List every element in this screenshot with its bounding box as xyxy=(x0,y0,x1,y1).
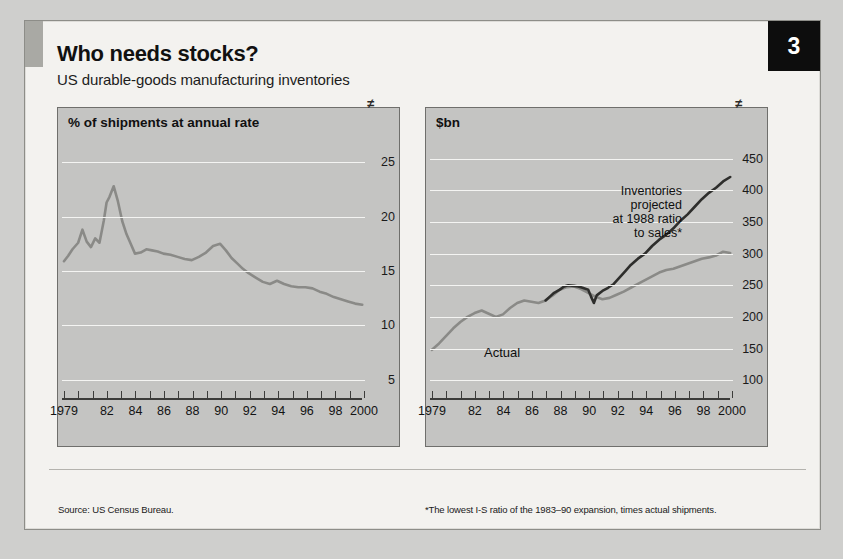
gridline xyxy=(62,217,365,218)
x-axis-label: 90 xyxy=(214,404,228,418)
x-axis-tick xyxy=(661,391,662,398)
chart-panel-right: $bn 100150200250300350400450 Inventories… xyxy=(425,107,768,447)
panel-right-title: $bn xyxy=(436,115,460,130)
axis-line xyxy=(430,398,730,400)
series-canvas-right xyxy=(426,138,767,410)
footer-divider xyxy=(49,469,806,470)
x-axis-tick xyxy=(321,391,322,398)
x-axis-tick xyxy=(364,391,365,398)
x-axis-label: 88 xyxy=(554,404,568,418)
x-axis-label: 82 xyxy=(100,404,114,418)
x-axis-label: 86 xyxy=(525,404,539,418)
x-axis-label: 1979 xyxy=(418,404,446,418)
x-axis-tick xyxy=(278,391,279,398)
x-axis-tick xyxy=(78,391,79,398)
x-axis-tick xyxy=(135,391,136,398)
x-axis-tick xyxy=(532,391,533,398)
x-axis-tick xyxy=(235,391,236,398)
axis-break-icon-right: ≠ xyxy=(735,96,742,410)
accent-bar xyxy=(25,21,43,67)
x-axis-tick xyxy=(461,391,462,398)
x-axis-label: 1979 xyxy=(50,404,78,418)
axis-line xyxy=(62,398,362,400)
x-axis-tick xyxy=(93,391,94,398)
x-axis-label: 90 xyxy=(582,404,596,418)
x-axis-label: 98 xyxy=(328,404,342,418)
x-axis-tick xyxy=(64,391,65,398)
x-axis-label: 94 xyxy=(639,404,653,418)
gridline xyxy=(430,317,733,318)
x-axis-tick xyxy=(575,391,576,398)
x-axis-tick xyxy=(264,391,265,398)
x-axis-tick xyxy=(475,391,476,398)
plot-area-right: 100150200250300350400450 xyxy=(426,138,767,410)
x-axis-label: 84 xyxy=(496,404,510,418)
x-axis-tick xyxy=(335,391,336,398)
x-axis-label: 96 xyxy=(668,404,682,418)
x-axis-tick xyxy=(307,391,308,398)
series-line xyxy=(64,186,362,304)
x-axis-tick xyxy=(121,391,122,398)
gridline xyxy=(62,271,365,272)
gridline xyxy=(430,349,733,350)
actual-annotation: Actual xyxy=(484,345,520,360)
x-axis-tick xyxy=(646,391,647,398)
x-axis-label: 92 xyxy=(243,404,257,418)
gridline xyxy=(62,325,365,326)
page-subtitle: US durable-goods manufacturing inventori… xyxy=(57,71,350,88)
annotation-line: projected xyxy=(562,198,682,212)
x-axis-tick xyxy=(432,391,433,398)
x-axis-tick xyxy=(293,391,294,398)
annotation-line: Inventories xyxy=(562,184,682,198)
x-axis-tick xyxy=(164,391,165,398)
gridline xyxy=(62,380,365,381)
chart-card: 3 Who needs stocks? US durable-goods man… xyxy=(24,20,821,530)
gridline xyxy=(430,285,733,286)
x-axis-tick xyxy=(546,391,547,398)
x-axis-label: 94 xyxy=(271,404,285,418)
axis-break-icon-left: ≠ xyxy=(367,96,374,410)
x-axis-tick xyxy=(193,391,194,398)
x-axis-right: 19798284868890929496982000 xyxy=(430,398,757,420)
x-axis-tick xyxy=(675,391,676,398)
series-canvas-left xyxy=(58,138,399,410)
x-axis-tick xyxy=(703,391,704,398)
x-axis-tick xyxy=(178,391,179,398)
x-axis-label: 92 xyxy=(611,404,625,418)
x-axis-tick xyxy=(503,391,504,398)
projected-annotation: Inventoriesprojectedat 1988 ratioto sale… xyxy=(562,184,682,240)
gridline xyxy=(62,162,365,163)
annotation-line: at 1988 ratio xyxy=(562,212,682,226)
chart-number: 3 xyxy=(788,35,801,58)
x-axis-tick xyxy=(632,391,633,398)
series-line xyxy=(432,252,730,350)
x-axis-tick xyxy=(603,391,604,398)
x-axis-tick xyxy=(489,391,490,398)
page-title: Who needs stocks? xyxy=(57,41,259,67)
plot-area-left: 510152025 xyxy=(58,138,399,410)
gridline xyxy=(430,159,733,160)
gridline xyxy=(430,254,733,255)
x-axis-label: 82 xyxy=(468,404,482,418)
x-axis-label: 98 xyxy=(696,404,710,418)
x-axis-left: 19798284868890929496982000 xyxy=(62,398,389,420)
x-axis-tick xyxy=(518,391,519,398)
x-axis-label: 88 xyxy=(186,404,200,418)
x-axis-tick xyxy=(221,391,222,398)
x-axis-tick xyxy=(561,391,562,398)
x-axis-tick xyxy=(618,391,619,398)
x-axis-tick xyxy=(718,391,719,398)
x-axis-tick xyxy=(107,391,108,398)
x-axis-label: 84 xyxy=(128,404,142,418)
x-axis-tick xyxy=(589,391,590,398)
x-axis-tick xyxy=(446,391,447,398)
x-axis-tick xyxy=(250,391,251,398)
x-axis-tick xyxy=(350,391,351,398)
chart-panel-left: % of shipments at annual rate 510152025 … xyxy=(57,107,400,447)
x-axis-tick xyxy=(732,391,733,398)
panel-left-title: % of shipments at annual rate xyxy=(68,115,259,130)
gridline xyxy=(430,380,733,381)
chart-number-badge: 3 xyxy=(768,21,820,71)
x-axis-tick xyxy=(207,391,208,398)
source-note: Source: US Census Bureau. xyxy=(58,504,174,515)
